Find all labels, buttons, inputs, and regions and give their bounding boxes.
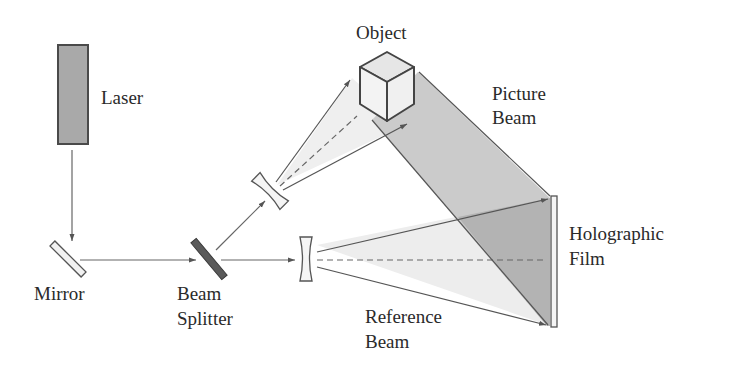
label-holographic-film-1: Holographic <box>569 223 664 245</box>
label-holographic-film-2: Film <box>569 248 605 270</box>
mirror-icon <box>50 241 86 277</box>
label-object: Object <box>356 22 407 44</box>
label-mirror: Mirror <box>34 283 85 305</box>
label-reference-beam-1: Reference <box>365 306 442 328</box>
label-picture-beam-2: Beam <box>492 107 536 129</box>
laser-icon <box>58 45 88 144</box>
label-picture-beam-1: Picture <box>492 83 546 105</box>
label-reference-beam-2: Beam <box>365 331 409 353</box>
lower-lens-icon <box>300 237 312 281</box>
label-beam-splitter-2: Splitter <box>177 308 233 330</box>
label-laser: Laser <box>101 87 143 109</box>
label-beam-splitter-1: Beam <box>177 283 221 305</box>
holographic-film-icon <box>551 196 557 327</box>
